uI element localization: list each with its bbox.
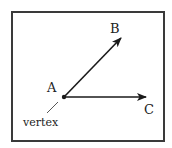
label-c: C	[144, 102, 154, 117]
vertex-point	[62, 95, 66, 99]
label-b: B	[110, 21, 120, 36]
vertex-pointer-line	[47, 102, 58, 113]
label-a: A	[46, 80, 57, 95]
angle-diagram: A B C vertex	[0, 0, 172, 148]
vertex-annotation: vertex	[22, 116, 59, 129]
ray-ab	[64, 38, 121, 97]
